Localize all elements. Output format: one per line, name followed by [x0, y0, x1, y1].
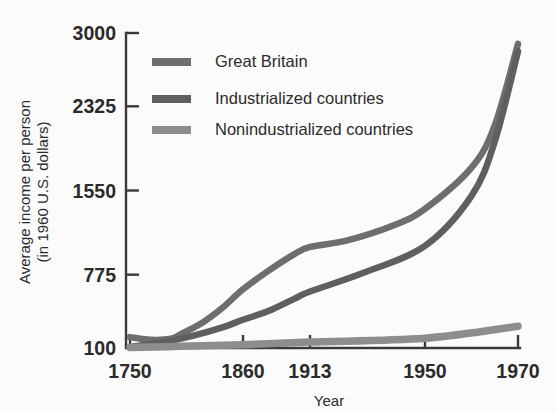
axis-spines — [126, 33, 520, 348]
y-tick-label-100: 100 — [83, 337, 116, 359]
line-chart: 10077515502325300017501860191319501970Ye… — [0, 0, 557, 413]
y-axis-title-line2: (in 1960 U.S. dollars) — [34, 122, 51, 263]
x-tick-label-1950: 1950 — [403, 360, 447, 382]
y-tick-label-775: 775 — [83, 264, 116, 286]
y-axis-title-line1: Average income per person — [16, 100, 33, 284]
series-line-great-britain — [130, 44, 518, 340]
x-tick-label-1970: 1970 — [496, 360, 540, 382]
legend-label-great-britain: Great Britain — [215, 52, 308, 70]
chart-figure: 10077515502325300017501860191319501970Ye… — [0, 0, 557, 413]
x-tick-label-1860: 1860 — [221, 360, 265, 382]
y-tick-label-3000: 3000 — [73, 22, 117, 44]
legend-label-industrialized-countries: Industrialized countries — [215, 89, 384, 107]
x-tick-label-1750: 1750 — [108, 360, 152, 382]
y-tick-label-2325: 2325 — [73, 95, 117, 117]
x-axis-title: Year — [314, 392, 344, 409]
legend-label-nonindustrialized-countries: Nonindustrialized countries — [215, 120, 413, 138]
y-tick-label-1550: 1550 — [73, 180, 117, 202]
x-tick-label-1913: 1913 — [288, 360, 332, 382]
